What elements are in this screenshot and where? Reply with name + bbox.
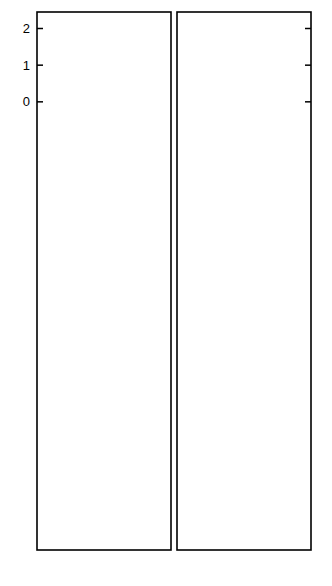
y-tick-label: 1 (23, 58, 30, 73)
left-column-frame (37, 12, 171, 550)
right-column-frame (177, 12, 311, 550)
figure-panel-grid: 012 (0, 0, 332, 586)
scatter-plot-svg: 012 (0, 0, 332, 586)
y-tick-label: 2 (23, 21, 30, 36)
y-tick-label: 0 (23, 94, 30, 109)
